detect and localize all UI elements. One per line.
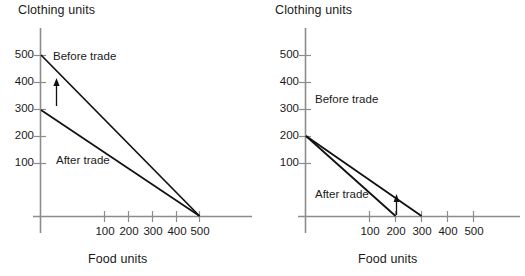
before-trade-line	[41, 55, 200, 216]
after-trade-line	[306, 136, 396, 216]
x-axis-title: Food units	[88, 252, 147, 266]
y-tick-label-100: 100	[8, 156, 34, 168]
y-tick-label-300: 300	[273, 102, 299, 114]
x-axis-title: Food units	[358, 252, 417, 266]
shift-arrow	[53, 78, 59, 106]
y-tick-label-200: 200	[8, 129, 34, 141]
y-tick-label-400: 400	[273, 75, 299, 87]
after-trade-label: After trade	[56, 154, 110, 166]
y-tick-label-300: 300	[8, 102, 34, 114]
before-trade-line	[306, 136, 422, 216]
after-trade-label: After trade	[315, 188, 369, 200]
x-tick-label-500: 500	[185, 225, 215, 237]
x-tick-label-500: 500	[459, 225, 489, 237]
y-tick-label-500: 500	[273, 48, 299, 60]
y-tick-label-200: 200	[273, 129, 299, 141]
before-trade-label: Before trade	[315, 93, 378, 105]
before-trade-label: Before trade	[53, 50, 116, 62]
y-tick-label-400: 400	[8, 75, 34, 87]
y-tick-label-500: 500	[8, 48, 34, 60]
y-tick-label-100: 100	[273, 156, 299, 168]
chart-panel-right: Clothing units 500 400 300 200 100 100 2…	[262, 0, 524, 276]
chart-panel-left: Clothing units 500 400 300 200 100 100 2…	[0, 0, 262, 276]
